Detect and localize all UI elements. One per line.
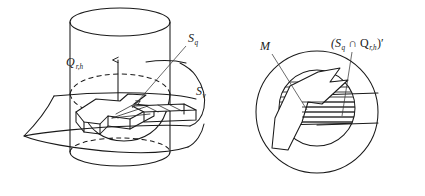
label-cylinder-qrh: Qr,h xyxy=(66,55,83,71)
zigzag-polygon-m xyxy=(272,68,348,150)
figure-root: Qr,h Sq Sv xyxy=(0,0,425,196)
cylinder-sheet-intersection-dashed-top xyxy=(70,74,170,94)
label-region-m: M xyxy=(259,39,271,53)
leader-line-sq xyxy=(132,46,186,108)
cylinder-qrh xyxy=(70,8,170,166)
label-surface-sv: Sv xyxy=(196,84,207,100)
label-surface-sq: Sq xyxy=(188,31,199,47)
figure-svg: Qr,h Sq Sv xyxy=(0,0,425,196)
surface-sv-right-lower xyxy=(188,124,204,147)
cylinder-bottom-front-arc xyxy=(70,152,170,166)
cylinder-top-ellipse xyxy=(70,8,170,36)
right-panel-group: M (Sq ∩ Qr,h)′ xyxy=(256,36,384,173)
left-panel-group: Qr,h Sq Sv xyxy=(24,8,207,166)
zigzag-right-front-face xyxy=(108,119,130,129)
label-intersection-complement: (Sq ∩ Qr,h)′ xyxy=(331,36,384,52)
cylinder-bottom-back-arc xyxy=(70,138,170,152)
